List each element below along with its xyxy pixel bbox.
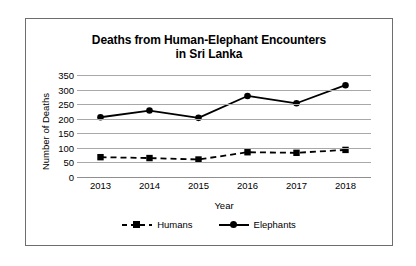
gridline-350	[77, 75, 371, 76]
x-axis-title: Year	[77, 200, 371, 211]
x-tick-label-2015: 2015	[179, 180, 219, 191]
data-point-humans-2013[interactable]	[97, 154, 103, 160]
gridline-200	[77, 119, 371, 120]
y-tick-label-150: 150	[40, 128, 74, 139]
chart-title-line-1: Deaths from Human-Elephant Encounters	[26, 33, 392, 47]
y-tick-label-0: 0	[40, 172, 74, 183]
chart-title: Deaths from Human-Elephant Encounters in…	[26, 33, 392, 61]
data-point-humans-2014[interactable]	[146, 155, 152, 161]
x-tick-label-2018: 2018	[326, 180, 366, 191]
gridline-150	[77, 133, 371, 134]
plot-area	[77, 75, 371, 177]
legend-item-humans[interactable]: Humans	[122, 219, 192, 230]
legend-label-humans: Humans	[157, 219, 192, 230]
x-axis-tick-labels: 201320142015201620172018	[77, 180, 371, 194]
y-tick-label-250: 250	[40, 99, 74, 110]
y-tick-label-350: 350	[40, 70, 74, 81]
gridline-100	[77, 148, 371, 149]
y-tick-label-50: 50	[40, 157, 74, 168]
humans-series-icon	[122, 220, 152, 230]
chart-container: Deaths from Human-Elephant Encounters in…	[25, 18, 393, 246]
y-tick-label-100: 100	[40, 142, 74, 153]
series-line-humans	[101, 150, 346, 160]
data-point-elephants-2016[interactable]	[244, 93, 251, 100]
y-tick-label-300: 300	[40, 84, 74, 95]
legend-label-elephants: Elephants	[254, 219, 296, 230]
data-point-humans-2016[interactable]	[244, 149, 250, 155]
y-axis-tick-labels: 350300250200150100500	[36, 75, 74, 177]
x-tick-label-2014: 2014	[130, 180, 170, 191]
x-tick-label-2016: 2016	[228, 180, 268, 191]
chart-legend: Humans Elephants	[26, 219, 392, 230]
data-point-elephants-2014[interactable]	[146, 107, 153, 114]
gridline-50	[77, 162, 371, 163]
gridline-250	[77, 104, 371, 105]
elephants-series-icon	[219, 220, 249, 230]
data-point-elephants-2018[interactable]	[342, 82, 349, 89]
x-tick-label-2017: 2017	[277, 180, 317, 191]
x-tick-label-2013: 2013	[81, 180, 121, 191]
gridline-300	[77, 90, 371, 91]
gridline-0	[77, 177, 371, 178]
legend-item-elephants[interactable]: Elephants	[219, 219, 296, 230]
data-point-humans-2017[interactable]	[293, 150, 299, 156]
y-tick-label-200: 200	[40, 113, 74, 124]
chart-title-line-2: in Sri Lanka	[26, 47, 392, 61]
